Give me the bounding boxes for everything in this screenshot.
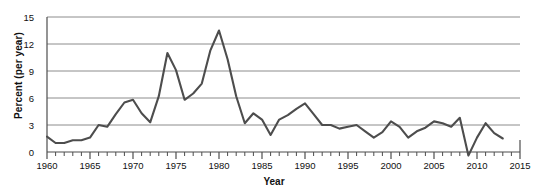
data-series-line: [47, 31, 503, 156]
plot-area: [0, 0, 548, 194]
inflation-line-chart: Percent (per year) Year 15 12 9 6 3 0 19…: [0, 0, 548, 194]
x-minor-ticks: [47, 152, 520, 159]
gridlines: [47, 17, 520, 152]
